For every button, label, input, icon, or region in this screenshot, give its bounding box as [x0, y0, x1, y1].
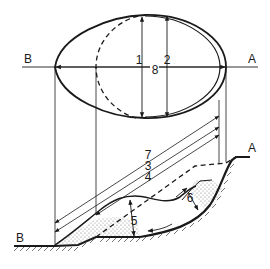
label-1: 1 [136, 53, 143, 67]
section-label-a: A [248, 141, 256, 155]
section-label-b: B [16, 231, 24, 245]
label-6: 6 [187, 191, 194, 205]
dimension-7-arrow [55, 116, 219, 223]
landslide-diagram: B A 1 2 8 [0, 0, 270, 269]
section-view: B A 7 3 4 5 6 [14, 116, 256, 251]
projection-lines [55, 67, 226, 245]
label-2: 2 [164, 53, 171, 67]
diagram-canvas: B A 1 2 8 [0, 0, 270, 269]
plan-view: B A 1 2 8 [22, 15, 258, 118]
toe-deposit [55, 217, 140, 245]
rupture-surface [140, 157, 250, 237]
plan-label-b: B [24, 52, 32, 66]
label-4: 4 [145, 170, 152, 184]
plan-label-a: A [248, 52, 256, 66]
label-5: 5 [131, 214, 138, 228]
label-8: 8 [152, 63, 159, 77]
head-block [190, 180, 222, 210]
